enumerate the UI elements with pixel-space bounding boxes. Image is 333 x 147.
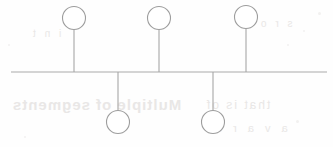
node-group-down-1[interactable] <box>107 72 130 134</box>
circle-up-2[interactable] <box>148 7 171 30</box>
node-group-up-1[interactable] <box>63 7 86 73</box>
node-stem-diagram <box>0 0 333 147</box>
circle-down-1[interactable] <box>107 111 130 134</box>
node-group-down-2[interactable] <box>202 72 225 134</box>
node-group-up-3[interactable] <box>235 6 258 73</box>
circle-up-1[interactable] <box>63 7 86 30</box>
node-group-up-2[interactable] <box>148 7 171 73</box>
circle-down-2[interactable] <box>202 111 225 134</box>
diagram-canvas: Multiple of segments that is of a v a r … <box>0 0 333 147</box>
circle-up-3[interactable] <box>235 6 258 29</box>
